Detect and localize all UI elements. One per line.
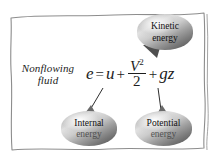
nonflowing-fluid-label: Nonflowing fluid (14, 62, 82, 86)
equation-plus-1: + (115, 66, 127, 83)
equation-internal-term: u (106, 64, 115, 84)
kinetic-label-line-2: energy (152, 33, 178, 44)
velocity-symbol: V (130, 58, 139, 74)
equation-lhs: e (86, 64, 94, 84)
equation-potential-term: gz (159, 64, 174, 84)
equation-kinetic-denominator: 2 (133, 74, 141, 88)
fluid-label-line-2: fluid (38, 74, 59, 86)
internal-label-line-1: Internal (74, 118, 104, 129)
velocity-exponent: 2 (139, 57, 144, 67)
callout-potential-energy[interactable]: Potential energy (135, 111, 192, 146)
equation-kinetic-numerator: V2 (128, 60, 146, 73)
potential-label-line-2: energy (151, 129, 177, 140)
figure-canvas: Nonflowing fluid e = u + V2 2 + gz Kinet… (0, 0, 215, 157)
callout-internal-energy[interactable]: Internal energy (61, 111, 117, 146)
potential-label-line-1: Potential (147, 118, 181, 129)
equation-kinetic-term: V2 2 (128, 60, 146, 88)
equation-plus-2: + (147, 66, 159, 83)
fluid-label-line-1: Nonflowing (22, 62, 74, 74)
kinetic-label-line-1: Kinetic (151, 21, 179, 32)
callout-kinetic-energy[interactable]: Kinetic energy (137, 14, 193, 50)
internal-label-line-2: energy (76, 129, 102, 140)
equation-equals: = (94, 66, 106, 83)
energy-equation: e = u + V2 2 + gz (86, 60, 174, 88)
